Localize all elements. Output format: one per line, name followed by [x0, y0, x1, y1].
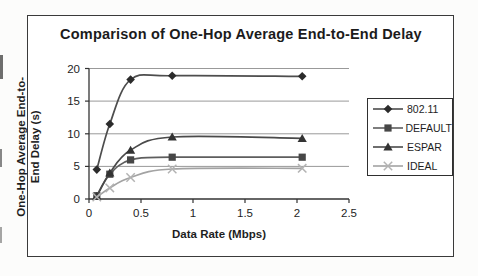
legend-marker-square-icon	[372, 122, 403, 134]
y-tick-label-0: 0	[74, 193, 80, 205]
legend-802.11-diamond-marker	[384, 104, 393, 113]
y-axis-title-line2: End Delay (s)	[29, 72, 43, 222]
y-tick-label-15: 15	[67, 95, 80, 107]
legend-box: 802.11DEFAULTESPARIDEAL	[367, 98, 453, 176]
x-tick-label-1.5: 1.5	[237, 207, 253, 219]
y-axis-title-line1: One-Hop Average End-to-	[15, 72, 29, 222]
x-axis-title: Data Rate (Mbps)	[89, 228, 349, 240]
y-tick-label-10: 10	[67, 128, 80, 140]
legend-marker-triangle-icon	[372, 141, 404, 153]
legend-marker-x-icon	[372, 160, 404, 172]
series-line-802.11	[97, 75, 302, 170]
legend-label-802.11: 802.11	[407, 103, 438, 115]
y-axis-title: One-Hop Average End-to- End Delay (s)	[15, 72, 43, 222]
legend-marker-diamond-icon	[372, 103, 404, 115]
legend-label-DEFAULT: DEFAULT	[406, 122, 452, 134]
series-802.11-diamond-marker	[106, 120, 115, 129]
series-ESPAR-triangle-marker	[126, 146, 135, 154]
x-tick-label-1: 1	[190, 207, 196, 219]
series-802.11-diamond-marker	[168, 71, 177, 80]
scanned-figure-page: Comparison of One-Hop Average End-to-End…	[0, 0, 478, 276]
y-tick-label-5: 5	[74, 160, 80, 172]
x-tick-label-2.5: 2.5	[341, 207, 357, 219]
legend-item-802.11: 802.11	[368, 99, 452, 118]
legend-item-IDEAL: IDEAL	[368, 156, 452, 175]
legend-DEFAULT-square-marker	[384, 124, 391, 131]
legend-item-ESPAR: ESPAR	[368, 137, 452, 156]
series-DEFAULT-square-marker	[127, 156, 134, 163]
legend-item-DEFAULT: DEFAULT	[368, 118, 452, 137]
legend-label-ESPAR: ESPAR	[407, 141, 442, 153]
series-802.11-diamond-marker	[298, 72, 307, 81]
x-tick-label-0.5: 0.5	[133, 207, 149, 219]
legend-label-IDEAL: IDEAL	[407, 160, 437, 172]
series-DEFAULT-square-marker	[299, 154, 306, 161]
y-tick-label-20: 20	[67, 63, 80, 75]
x-tick-label-0: 0	[86, 207, 92, 219]
series-DEFAULT-square-marker	[169, 154, 176, 161]
x-tick-label-2: 2	[294, 207, 300, 219]
series-line-IDEAL	[97, 168, 302, 197]
